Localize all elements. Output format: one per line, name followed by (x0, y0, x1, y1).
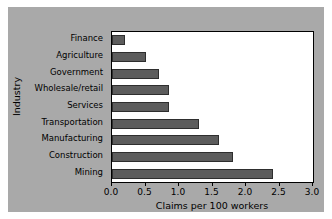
x-axis-tick-mark (212, 182, 213, 186)
x-axis-tick-label: 3.0 (305, 187, 319, 197)
bar-row (112, 119, 313, 129)
bar (112, 169, 273, 179)
bar-row (112, 85, 313, 95)
x-axis-tick-mark (245, 182, 246, 186)
plot-area (111, 31, 314, 183)
bar (112, 69, 159, 79)
bar-row (112, 152, 313, 162)
y-axis-tick-label: Mining (75, 168, 103, 177)
x-axis-title: Claims per 100 workers (111, 200, 313, 211)
bar-row (112, 69, 313, 79)
y-axis-tick-labels: FinanceAgricultureGovernmentWholesale/re… (8, 31, 108, 181)
x-axis-tick-labels: 0.00.51.01.52.02.53.0 (111, 187, 313, 199)
y-axis-tick-label: Services (67, 101, 103, 110)
bar-row (112, 102, 313, 112)
bars-layer (112, 32, 313, 182)
bar (112, 52, 146, 62)
x-axis-tick-label: 2.0 (238, 187, 252, 197)
bar (112, 85, 169, 95)
x-axis-tick-mark (312, 182, 313, 186)
x-axis-tick-mark (178, 182, 179, 186)
y-axis-tick-label: Wholesale/retail (35, 84, 103, 93)
y-axis-tick-label: Transportation (42, 118, 103, 127)
y-axis-tick-label: Agriculture (56, 51, 103, 60)
bar-row (112, 169, 313, 179)
y-axis-tick-label: Government (50, 68, 103, 77)
bar (112, 152, 233, 162)
x-axis-tick-mark (111, 182, 112, 186)
y-axis-tick-label: Finance (70, 34, 103, 43)
y-axis-tick-label: Manufacturing (41, 134, 103, 143)
x-axis-tick-label: 2.5 (271, 187, 285, 197)
x-axis-tick-label: 1.5 (204, 187, 218, 197)
x-axis-tick-label: 0.0 (104, 187, 118, 197)
chart-figure: Industry FinanceAgricultureGovernmentWho… (0, 0, 332, 219)
x-axis-tick-mark (145, 182, 146, 186)
x-axis-ticks (111, 182, 313, 186)
x-axis-tick-mark (279, 182, 280, 186)
bar (112, 35, 125, 45)
bar (112, 135, 219, 145)
bar-row (112, 135, 313, 145)
bar (112, 102, 169, 112)
x-axis-tick-label: 1.0 (171, 187, 185, 197)
bar-row (112, 35, 313, 45)
bar-row (112, 52, 313, 62)
y-axis-tick-label: Construction (49, 151, 103, 160)
x-axis-tick-label: 0.5 (137, 187, 151, 197)
chart-canvas: Industry FinanceAgricultureGovernmentWho… (8, 7, 324, 212)
bar (112, 119, 199, 129)
